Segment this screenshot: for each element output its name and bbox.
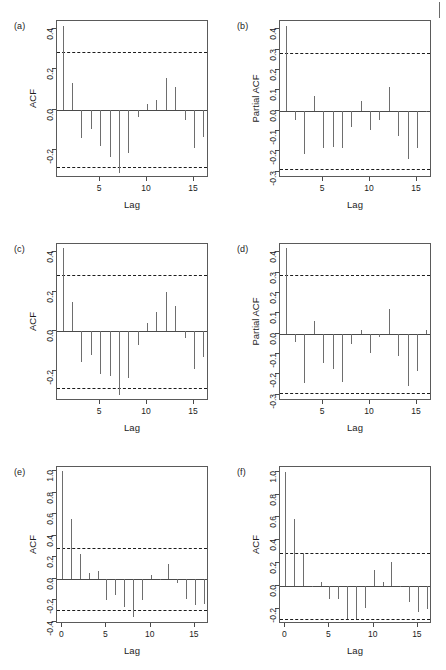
acf-bar [365,586,366,608]
panel-label-b: (b) [237,21,248,31]
x-tick [322,177,323,181]
plot-area-a [56,20,208,177]
x-axis-title-b: Lag [279,199,431,210]
y-tick-label: -0.1 [268,353,278,375]
confidence-band-upper [57,548,207,549]
y-tick-label: 0.8 [45,492,55,514]
acf-bar [62,471,63,579]
x-tick-label: 5 [87,183,111,193]
x-tick-label: 10 [138,629,162,639]
acf-bar [166,78,167,109]
confidence-band-lower [280,169,430,170]
y-tick-label: 0.0 [268,110,278,132]
panel-c: (c)-0.20.00.20.4ACF51015Lag [0,223,223,446]
acf-bar [408,111,409,159]
acf-bar [72,83,73,109]
y-tick-label: 0.1 [268,89,278,111]
acf-bar [379,111,380,120]
acf-bar [177,579,178,583]
acf-bar [286,248,287,334]
acf-bar [147,323,148,332]
x-tick [99,177,100,181]
y-axis-title-a: ACF [27,70,38,126]
confidence-band-lower [57,610,207,611]
x-tick-label: 15 [181,183,205,193]
acf-bar [323,111,324,148]
x-tick [150,623,151,627]
x-tick-label: 15 [404,406,428,416]
acf-bar [427,586,428,609]
acf-bar [417,334,418,371]
acf-bar [106,579,107,600]
x-tick-label: 5 [316,629,340,639]
acf-bar [286,26,287,111]
acf-bar [81,331,82,362]
acf-bar [160,579,161,580]
x-axis-title-f: Lag [279,645,431,656]
acf-bar [408,334,409,386]
y-tick-label: 0.4 [268,28,278,50]
x-tick [61,623,62,627]
y-tick-label: 0.4 [45,28,55,50]
acf-bar [379,334,380,337]
x-axis-title-a: Lag [56,199,208,210]
y-tick-label: 0.1 [268,312,278,334]
acf-bar [389,309,390,334]
y-tick-label: 0.4 [45,535,55,557]
y-tick-label: -0.2 [268,150,278,172]
panel-d: (d)-0.3-0.2-0.10.00.10.20.30.4Partial AC… [223,223,446,446]
plot-inner-f [280,467,430,622]
x-tick [417,623,418,627]
x-tick [284,623,285,627]
y-tick-label: -0.2 [45,599,55,621]
confidence-band-lower [280,393,430,394]
acf-bar [185,110,186,120]
acf-bar [314,96,315,111]
y-tick-label: 0.2 [268,562,278,584]
acf-bar [295,334,296,342]
acf-bar [175,87,176,109]
acf-bar [151,575,152,578]
x-axis-title-d: Lag [279,422,431,433]
acf-bar [100,110,101,147]
x-tick [416,400,417,404]
y-tick-label: 0.2 [268,69,278,91]
x-axis-title-e: Lag [56,645,208,656]
x-tick [193,177,194,181]
plot-area-b [279,20,431,177]
x-tick-label: 5 [87,406,111,416]
acf-bar [168,564,169,579]
x-tick [373,623,374,627]
y-tick-label: 0.2 [45,291,55,313]
acf-bar [370,111,371,130]
x-tick-label: 5 [93,629,117,639]
y-tick-label: -0.3 [268,171,278,193]
y-tick-label: 1.0 [268,471,278,493]
acf-bar [110,331,111,375]
acf-bar [329,586,330,599]
acf-bar [295,111,296,121]
panel-b: (b)-0.3-0.2-0.10.00.10.20.30.4Partial AC… [223,0,446,223]
acf-bar [204,579,205,604]
plot-inner-a [57,21,207,176]
panel-f: (f)-0.20.00.20.40.60.81.0ACF051015Lag [223,446,446,669]
x-tick-label: 10 [134,406,158,416]
y-tick-label: -0.3 [268,394,278,416]
panel-a: (a)-0.20.00.20.4ACF51015Lag [0,0,223,223]
acf-bar [166,292,167,331]
acf-bar [361,101,362,111]
y-tick-label: 1.0 [45,470,55,492]
acf-bar [383,582,384,586]
x-tick-label: 15 [181,406,205,416]
acf-bar [347,586,348,619]
x-tick [328,623,329,627]
panel-e: (e)-0.4-0.20.00.20.40.60.81.0ACF051015La… [0,446,223,669]
acf-bar [203,331,204,356]
acf-bar [351,111,352,128]
acf-bar [72,302,73,331]
panel-label-e: (e) [14,467,25,477]
acf-bar [304,111,305,154]
acf-bar [89,573,90,579]
plot-area-e [56,466,208,623]
acf-bar [124,579,125,607]
